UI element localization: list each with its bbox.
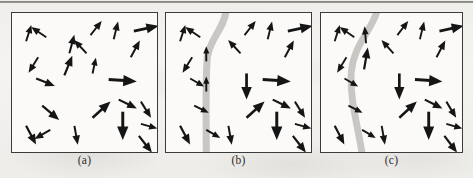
arrow-head [419, 22, 426, 31]
arrow [446, 102, 456, 118]
arrow-shaft [79, 46, 86, 54]
arrow-shaft [180, 126, 186, 137]
arrow-head [362, 48, 370, 59]
arrow [266, 22, 273, 40]
arrow-shaft [91, 27, 98, 35]
arrow-head [454, 123, 462, 130]
arrow-head [271, 126, 282, 140]
arrow-shaft [444, 136, 451, 146]
arrow [381, 40, 393, 53]
arrow [68, 35, 75, 53]
arrow [263, 75, 291, 86]
arrow-head [112, 22, 119, 31]
arrow [117, 112, 128, 140]
arrow-head [334, 25, 340, 34]
arrow-shaft [446, 124, 455, 127]
arrow [180, 25, 187, 41]
arrow [293, 136, 306, 152]
arrow-shaft [233, 46, 240, 54]
arrow-shaft [93, 109, 103, 118]
arrow-shaft [74, 126, 76, 137]
arrow [91, 21, 102, 35]
arrow [109, 75, 137, 86]
arrow [74, 40, 86, 53]
arrow-head [429, 75, 443, 86]
arrow [380, 126, 387, 145]
vector-field-b [166, 13, 311, 152]
arrow-shaft [37, 31, 46, 37]
arrow [134, 23, 157, 33]
arrow [35, 130, 51, 139]
arrow-shaft [180, 32, 183, 42]
arrow [26, 126, 36, 145]
arrow-shaft [425, 100, 435, 105]
arrow [183, 57, 193, 72]
arrow [42, 106, 59, 120]
arrow [425, 100, 443, 109]
arrow-shaft [245, 27, 252, 35]
arrow [419, 22, 426, 40]
top-horizontal-rule [0, 1, 473, 3]
arrow [423, 112, 434, 140]
arrow [247, 102, 265, 118]
arrow [334, 25, 340, 41]
arrow-head [451, 23, 462, 33]
arrow-shaft [273, 100, 284, 105]
arrow [131, 40, 140, 57]
arrow [362, 48, 370, 70]
arrow [362, 130, 376, 138]
arrow-head [241, 87, 251, 100]
arrow-shaft [69, 43, 72, 54]
arrow-head [423, 126, 434, 140]
arrow-shaft [263, 79, 279, 80]
arrow [29, 57, 39, 72]
arrow-group-b [180, 21, 311, 152]
figure-panel-c [320, 12, 463, 153]
arrow-shaft [190, 78, 198, 83]
arrow-shaft [93, 64, 95, 73]
panel-caption-a: (a) [11, 154, 158, 166]
arrow [439, 23, 462, 33]
arrow-shaft [288, 28, 302, 31]
arrow-head [68, 35, 75, 45]
panel-caption-b: (b) [165, 154, 312, 166]
arrow-shaft [41, 130, 50, 135]
arrow-head [31, 27, 40, 35]
arrow-shaft [109, 79, 125, 80]
arrow-shaft [295, 124, 305, 127]
arrow-head [266, 22, 273, 31]
arrow-head [380, 135, 387, 145]
arrow-head [44, 79, 54, 86]
arrow [91, 58, 97, 74]
arrow-shaft [386, 46, 393, 54]
arrow [180, 126, 190, 145]
arrow [288, 23, 311, 33]
arrow-head [65, 56, 73, 67]
arrow [31, 27, 46, 37]
arrow-shaft [335, 32, 338, 42]
arrow-shaft [335, 126, 341, 137]
arrow-head [146, 23, 157, 33]
arrow-head [149, 123, 157, 130]
arrow-head [277, 75, 291, 86]
arrow-shaft [26, 32, 29, 42]
arrow [141, 123, 157, 130]
arrow [226, 126, 234, 145]
arrow-head [226, 135, 234, 145]
arrow-shaft [420, 29, 422, 39]
arrow [190, 78, 204, 86]
arrow [295, 123, 311, 130]
arrow-head [300, 23, 311, 33]
arrow [273, 100, 291, 109]
arrow [415, 75, 442, 86]
arrow [340, 27, 355, 37]
arrow [112, 22, 119, 40]
arrow-shaft [446, 102, 452, 111]
arrow-shaft [397, 27, 403, 35]
arrow-shaft [268, 29, 271, 39]
arrow [399, 102, 416, 118]
arrow-shaft [365, 33, 366, 43]
arrow-head [180, 25, 187, 34]
arrow-shaft [141, 102, 147, 111]
arrow [26, 25, 33, 41]
